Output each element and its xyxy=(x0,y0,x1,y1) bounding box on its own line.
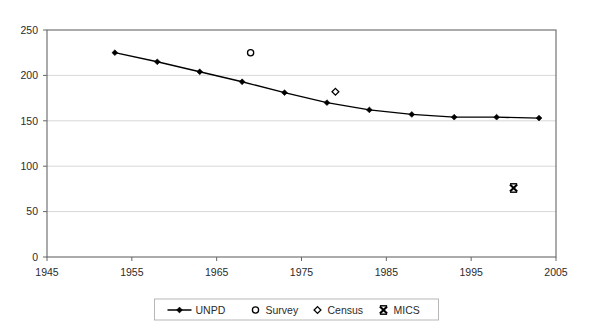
x-axis-tick-label: 1965 xyxy=(205,266,229,278)
chart-container: 050100150200250 194519551965197519851995… xyxy=(0,0,591,336)
legend-label-unpd: UNPD xyxy=(196,304,226,316)
x-axis-tick-label: 1955 xyxy=(120,266,144,278)
legend-label-survey: Survey xyxy=(266,304,299,316)
y-axis-tick-label: 100 xyxy=(20,160,38,172)
y-axis-tick-label: 250 xyxy=(20,24,38,36)
x-axis-tick-label: 1985 xyxy=(375,266,399,278)
y-axis-tick-label: 50 xyxy=(26,205,38,217)
legend-label-census: Census xyxy=(328,304,364,316)
x-axis-tick-label: 1945 xyxy=(35,266,59,278)
y-axis-tick-label: 200 xyxy=(20,69,38,81)
x-axis-tick-label: 1995 xyxy=(459,266,483,278)
y-axis-tick-label: 150 xyxy=(20,115,38,127)
chart-legend: UNPDSurveyCensusMICS xyxy=(155,299,439,320)
legend-label-mics: MICS xyxy=(394,304,420,316)
chart-background xyxy=(0,0,591,336)
x-axis-tick-label: 2005 xyxy=(544,266,568,278)
chart-canvas: 050100150200250 194519551965197519851995… xyxy=(0,0,591,336)
x-axis-tick-label: 1975 xyxy=(290,266,314,278)
y-axis-tick-label: 0 xyxy=(32,251,38,263)
